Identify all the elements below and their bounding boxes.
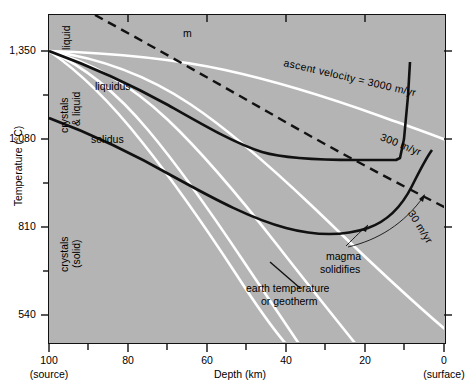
y-axis-ticks-right	[444, 51, 452, 315]
x-axis-ticks-top	[128, 15, 365, 22]
x-axis-left-note: (source)	[14, 368, 84, 380]
x-tick-60: 60	[184, 354, 230, 366]
geotherm-label-2: or geotherm	[261, 295, 318, 307]
magma-solidifies-label-1: magma	[326, 250, 361, 262]
x-tick-80: 80	[105, 354, 151, 366]
solidus-label: solidus	[91, 133, 124, 145]
region-label-crystals-solid-2: (solid)	[70, 239, 82, 268]
x-tick-40: 40	[263, 354, 309, 366]
y-axis-title: Temperature (°C)	[12, 111, 24, 221]
x-axis-ticks	[49, 344, 444, 352]
region-label-crystals-solid-1: crystals	[58, 236, 70, 272]
y-axis-ticks	[41, 51, 49, 315]
x-tick-20: 20	[342, 354, 388, 366]
x-axis-title: Depth (km)	[214, 368, 266, 380]
curve-ascent-300-dashed	[95, 15, 446, 208]
curve-geotherm	[49, 51, 286, 344]
region-label-crystals-liquid-1: crystals	[58, 97, 70, 133]
geotherm-label-1: earth temperature	[246, 282, 329, 294]
x-tick-0: 0	[421, 354, 467, 366]
region-label-liquid: liquid	[60, 25, 72, 50]
y-tick-810: 810	[0, 220, 36, 232]
dashed-line-marker-label: m	[183, 27, 192, 39]
x-tick-100: 100	[26, 354, 72, 366]
region-label-crystals-liquid-2: & liquid	[70, 92, 82, 126]
magma-solidifies-label-2: solidifies	[320, 263, 360, 275]
liquidus-label: liquidus	[95, 80, 131, 92]
y-tick-540: 540	[0, 308, 36, 320]
y-tick-1350: 1,350	[0, 44, 36, 56]
x-axis-right-note: (surface)	[409, 368, 469, 380]
